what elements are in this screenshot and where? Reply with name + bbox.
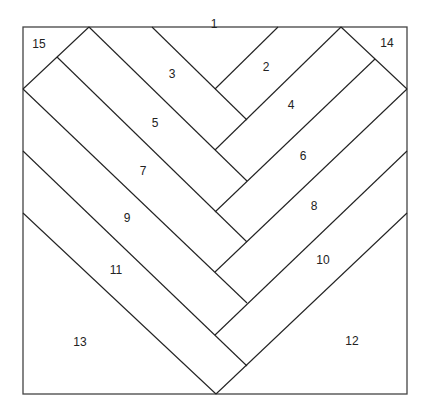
piece-label-2: 2 (263, 60, 270, 74)
piece-label-11: 11 (110, 263, 123, 277)
piece-label-10: 10 (316, 253, 330, 267)
piece-label-9: 9 (124, 211, 131, 225)
herringbone-block-diagram: 123456789101112131415 (0, 0, 427, 409)
piece-label-12: 12 (345, 334, 359, 348)
piece-label-14: 14 (380, 36, 394, 50)
piece-label-5: 5 (152, 116, 159, 130)
piece-label-7: 7 (140, 164, 147, 178)
piece-label-4: 4 (288, 98, 295, 112)
piece-label-3: 3 (169, 67, 176, 81)
piece-label-13: 13 (73, 335, 87, 349)
piece-label-6: 6 (300, 149, 307, 163)
piece-label-15: 15 (32, 37, 46, 51)
piece-label-8: 8 (311, 199, 318, 213)
background (0, 0, 427, 409)
piece-label-1: 1 (211, 17, 218, 31)
